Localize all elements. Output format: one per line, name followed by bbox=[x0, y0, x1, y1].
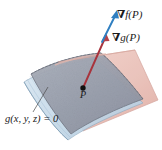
gradient-g-label: ∇g(P) bbox=[112, 32, 140, 43]
gradient-g-label-text: g(P) bbox=[120, 31, 140, 43]
point-p-label: P bbox=[80, 90, 86, 100]
gradient-f-label: ∇f(P) bbox=[117, 9, 142, 20]
gradient-f-label-text: f(P) bbox=[125, 8, 142, 20]
constraint-equation-label: g(x, y, z) = 0 bbox=[5, 114, 58, 125]
figure-canvas bbox=[0, 0, 162, 150]
gradient-surface-figure: ∇f(P) ∇g(P) P g(x, y, z) = 0 bbox=[0, 0, 162, 150]
